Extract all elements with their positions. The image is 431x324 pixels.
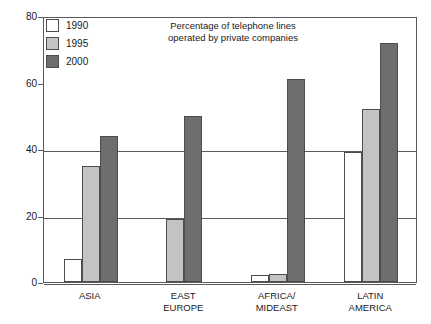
x-axis-tick-label: EAST EUROPE xyxy=(137,290,231,314)
bar-2000 xyxy=(287,79,305,282)
bar-1990 xyxy=(64,259,82,282)
y-axis-tick-label: 20 xyxy=(8,212,37,222)
bar-1995 xyxy=(82,166,100,282)
bar-1995 xyxy=(362,109,380,282)
bar-2000 xyxy=(100,136,118,282)
chart-title-line-2: operated by private companies xyxy=(148,32,318,44)
legend: 1990 1995 2000 xyxy=(46,19,88,68)
bar-1995 xyxy=(269,274,287,282)
chart-title-line-1: Percentage of telephone lines xyxy=(148,20,318,32)
bar-2000 xyxy=(184,116,202,282)
white-square-swatch-icon xyxy=(46,19,59,32)
bar-2000 xyxy=(380,43,398,282)
y-axis-tick-label: 80 xyxy=(8,12,37,22)
gridline-20 xyxy=(44,284,416,285)
legend-item-1990: 1990 xyxy=(46,19,88,32)
chart-title: Percentage of telephone lines operated b… xyxy=(148,20,318,44)
bar-chart-figure: 020406080 ASIAEAST EUROPEAFRICA/ MIDEAST… xyxy=(0,0,431,324)
legend-item-1995: 1995 xyxy=(46,37,88,50)
light-gray-square-swatch-icon xyxy=(46,37,59,50)
x-axis-tick-label: LATIN AMERICA xyxy=(324,290,418,314)
x-axis-tick-label: AFRICA/ MIDEAST xyxy=(230,290,324,314)
bar-1990 xyxy=(344,152,362,282)
y-axis-tick-label: 60 xyxy=(8,79,37,89)
bar-group xyxy=(231,18,325,282)
y-axis-tick-label: 40 xyxy=(8,145,37,155)
bar-1995 xyxy=(166,219,184,282)
legend-label: 1990 xyxy=(66,21,88,31)
plot-area xyxy=(43,17,417,283)
bar-1990 xyxy=(251,275,269,282)
y-axis-tick-mark xyxy=(38,283,43,284)
dark-gray-square-swatch-icon xyxy=(46,55,59,68)
y-axis-tick-label: 0 xyxy=(8,278,37,288)
x-axis-tick-label: ASIA xyxy=(43,290,137,302)
bar-group xyxy=(138,18,232,282)
legend-label: 2000 xyxy=(66,57,88,67)
legend-item-2000: 2000 xyxy=(46,55,88,68)
bar-group xyxy=(325,18,419,282)
legend-label: 1995 xyxy=(66,39,88,49)
